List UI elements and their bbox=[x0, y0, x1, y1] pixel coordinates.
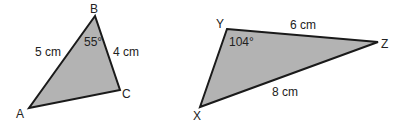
angle-label-y: 104° bbox=[229, 35, 254, 49]
side-label-ab: 5 cm bbox=[35, 45, 61, 59]
vertex-label-y: Y bbox=[216, 17, 224, 31]
side-label-xz: 8 cm bbox=[272, 85, 298, 99]
vertex-label-c: C bbox=[122, 87, 131, 101]
side-label-bc: 4 cm bbox=[113, 45, 139, 59]
vertex-label-b: B bbox=[90, 2, 98, 16]
vertex-label-z: Z bbox=[381, 37, 388, 51]
triangle-abc: B A C 5 cm 4 cm 55° bbox=[16, 2, 139, 121]
triangle-abc-shape bbox=[29, 16, 120, 108]
triangle-xyz: Y Z X 6 cm 8 cm 104° bbox=[193, 17, 388, 123]
angle-label-b: 55° bbox=[84, 35, 102, 49]
side-label-yz: 6 cm bbox=[290, 18, 316, 32]
vertex-label-a: A bbox=[16, 107, 24, 121]
diagram-canvas: B A C 5 cm 4 cm 55° Y Z X 6 cm 8 cm 104° bbox=[0, 0, 413, 133]
vertex-label-x: X bbox=[193, 109, 201, 123]
